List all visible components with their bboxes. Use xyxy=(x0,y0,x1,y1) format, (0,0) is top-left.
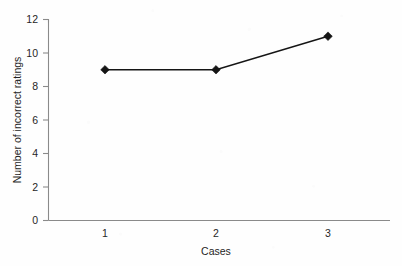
y-axis-ticks xyxy=(43,20,49,221)
x-tick-label-3: 3 xyxy=(325,227,331,239)
data-point-case-1 xyxy=(101,66,110,75)
series-markers xyxy=(101,32,333,74)
y-tick-label-0: 0 xyxy=(32,214,38,226)
x-tick-label-2: 2 xyxy=(213,227,219,239)
data-point-case-2 xyxy=(212,66,221,75)
line-chart: 12 10 8 6 4 2 0 1 2 3 Cases Number of in… xyxy=(0,0,402,266)
y-tick-label-10: 10 xyxy=(26,47,38,59)
data-point-case-3 xyxy=(324,32,333,41)
series-line-number-of-incorrect-ratings xyxy=(105,36,328,70)
y-tick-label-4: 4 xyxy=(32,147,38,159)
y-tick-label-6: 6 xyxy=(32,114,38,126)
y-tick-label-2: 2 xyxy=(32,181,38,193)
y-axis-title: Number of incorrect ratings xyxy=(11,57,23,184)
chart-figure: 12 10 8 6 4 2 0 1 2 3 Cases Number of in… xyxy=(0,0,402,266)
x-axis-title: Cases xyxy=(201,245,231,257)
x-tick-label-1: 1 xyxy=(102,227,108,239)
y-tick-label-12: 12 xyxy=(26,13,38,25)
y-tick-label-8: 8 xyxy=(32,80,38,92)
